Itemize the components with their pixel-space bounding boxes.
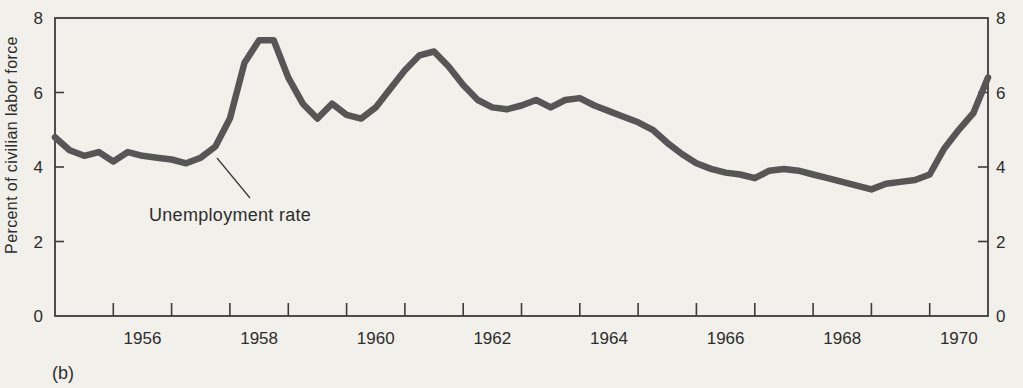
- y-axis-title: Percent of civilian labor force: [3, 36, 20, 254]
- y-tick-label-left-2: 2: [34, 233, 43, 252]
- x-tick-label-1966: 1966: [707, 329, 745, 348]
- plot-frame: [55, 18, 988, 316]
- y-tick-label-left-4: 4: [34, 158, 43, 177]
- y-tick-label-right-6: 6: [996, 84, 1005, 103]
- y-tick-label-right-4: 4: [996, 158, 1005, 177]
- unemployment-rate-chart: 02468 02468 1956195819601962196419661968…: [0, 0, 1023, 388]
- unemployment-rate-line: [55, 40, 988, 189]
- y-tick-label-right-0: 0: [996, 307, 1005, 326]
- figure-panel-b: 02468 02468 1956195819601962196419661968…: [0, 0, 1023, 388]
- x-tick-label-1956: 1956: [124, 329, 162, 348]
- x-tick-label-1962: 1962: [473, 329, 511, 348]
- y-axis-tick-labels-left: 02468: [34, 9, 43, 326]
- annotation-unemployment-rate: Unemployment rate: [149, 205, 311, 225]
- panel-label: (b): [52, 363, 74, 383]
- x-tick-label-1968: 1968: [823, 329, 861, 348]
- x-axis-tick-labels: 19561958196019621964196619681970: [124, 329, 978, 348]
- x-tick-label-1960: 1960: [357, 329, 395, 348]
- y-axis-tick-labels-right: 02468: [996, 9, 1005, 326]
- y-tick-label-right-2: 2: [996, 233, 1005, 252]
- y-tick-label-left-8: 8: [34, 9, 43, 28]
- y-tick-label-left-6: 6: [34, 84, 43, 103]
- x-tick-label-1958: 1958: [240, 329, 278, 348]
- y-tick-label-right-8: 8: [996, 9, 1005, 28]
- x-tick-label-1970: 1970: [940, 329, 978, 348]
- y-tick-label-left-0: 0: [34, 307, 43, 326]
- x-tick-label-1964: 1964: [590, 329, 628, 348]
- annotation-leader-line: [217, 158, 250, 198]
